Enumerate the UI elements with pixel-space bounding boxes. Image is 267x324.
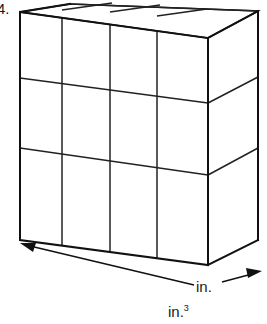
right-face	[208, 12, 258, 265]
depth-unit-label: in.	[196, 279, 212, 294]
prism-drawing	[0, 0, 267, 324]
right-arrow-head	[246, 268, 262, 278]
front-face	[20, 12, 208, 265]
volume-unit-text: in.	[168, 303, 184, 320]
volume-unit-label: in.3	[168, 304, 189, 319]
volume-exponent: 3	[184, 303, 189, 313]
prism-figure: 4. in. in.3	[0, 0, 267, 324]
left-arrow-head	[20, 243, 36, 252]
problem-number-label: 4.	[0, 1, 9, 16]
